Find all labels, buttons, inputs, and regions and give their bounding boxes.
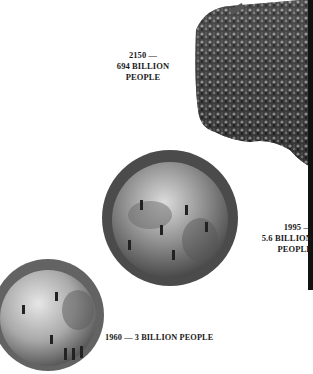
globe-1960 (0, 259, 104, 371)
globe-1995 (102, 150, 238, 286)
label-2150-population: 694 BILLION (100, 61, 186, 72)
label-1995-year: 1995 — (246, 222, 312, 233)
label-2150-people: PEOPLE (100, 72, 186, 83)
label-1995-population: 5.6 BILLION (246, 233, 312, 244)
label-2150-year: 2150 — (100, 50, 186, 61)
label-1960: 1960 — 3 BILLION PEOPLE (105, 332, 213, 343)
label-1995-people: PEOPLE (246, 244, 312, 255)
label-1995: 1995 — 5.6 BILLION PEOPLE (246, 222, 312, 255)
label-2150: 2150 — 694 BILLION PEOPLE (100, 50, 186, 83)
globe-2150-crowd (195, 0, 313, 168)
